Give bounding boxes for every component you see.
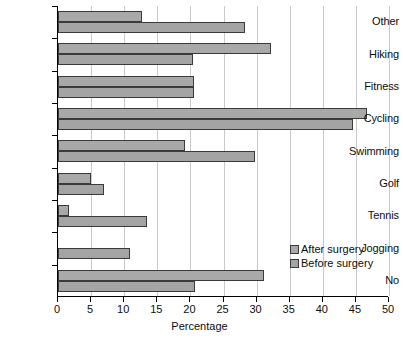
bar-before-surgery — [58, 216, 147, 227]
y-axis-tick — [52, 103, 57, 104]
bar-before-surgery — [58, 22, 245, 33]
bar-before-surgery — [58, 119, 353, 130]
bar-group — [58, 200, 388, 232]
bar-after-surgery — [58, 270, 264, 281]
bar-after-surgery — [58, 43, 271, 54]
bar-after-surgery — [58, 76, 194, 87]
bar-after-surgery — [58, 140, 185, 151]
y-axis-label: Golf — [347, 178, 399, 189]
legend-label: Before surgery — [301, 258, 373, 269]
bar-after-surgery — [58, 173, 91, 184]
x-axis-label: 20 — [174, 304, 204, 315]
x-axis-tick — [388, 297, 389, 302]
x-axis-label: 35 — [274, 304, 304, 315]
bar-group — [58, 6, 388, 38]
chart-legend: After surgery Before surgery — [290, 243, 373, 271]
x-axis-tick — [189, 297, 190, 302]
x-axis-tick — [289, 297, 290, 302]
y-axis-label: Cycling — [347, 113, 399, 124]
bar-group — [58, 71, 388, 103]
legend-swatch-icon — [290, 245, 299, 254]
x-axis-tick — [322, 297, 323, 302]
y-axis-label: No — [347, 275, 399, 286]
bar-before-surgery — [58, 151, 255, 162]
y-axis-tick — [52, 168, 57, 169]
x-axis-tick — [57, 297, 58, 302]
legend-item-before-surgery: Before surgery — [290, 257, 373, 270]
bar-before-surgery — [58, 281, 195, 292]
bar-before-surgery — [58, 54, 193, 65]
y-axis-label: Tennis — [347, 210, 399, 221]
x-axis-label: 10 — [108, 304, 138, 315]
y-axis-label: Hiking — [347, 49, 399, 60]
x-axis-label: 0 — [42, 304, 72, 315]
bar-group — [58, 135, 388, 167]
bar-after-surgery — [58, 108, 367, 119]
x-axis-tick — [223, 297, 224, 302]
x-axis-label: 15 — [141, 304, 171, 315]
x-axis-label: 45 — [340, 304, 370, 315]
bar-after-surgery — [58, 205, 69, 216]
y-axis-tick — [52, 71, 57, 72]
x-axis-title: Percentage — [0, 321, 399, 332]
legend-item-after-surgery: After surgery — [290, 243, 373, 256]
bar-before-surgery — [58, 87, 194, 98]
bar-before-surgery — [58, 248, 130, 259]
bar-after-surgery — [58, 11, 142, 22]
x-axis-label: 50 — [373, 304, 403, 315]
x-axis-tick — [256, 297, 257, 302]
bar-group — [58, 38, 388, 70]
y-axis-label: Fitness — [347, 81, 399, 92]
x-axis-tick — [123, 297, 124, 302]
x-axis-label: 30 — [241, 304, 271, 315]
legend-swatch-icon — [290, 259, 299, 268]
x-axis-label: 25 — [208, 304, 238, 315]
y-axis-label: Swimming — [347, 146, 399, 157]
bar-group — [58, 168, 388, 200]
legend-label: After surgery — [301, 244, 364, 255]
x-axis-tick — [355, 297, 356, 302]
x-axis-label: 5 — [75, 304, 105, 315]
bar-before-surgery — [58, 184, 104, 195]
y-axis-tick — [52, 265, 57, 266]
y-axis-tick — [52, 6, 57, 7]
y-axis-tick — [52, 200, 57, 201]
x-axis-tick — [156, 297, 157, 302]
y-axis-tick — [52, 38, 57, 39]
y-axis-tick — [52, 135, 57, 136]
bar-group — [58, 103, 388, 135]
x-axis-label: 40 — [307, 304, 337, 315]
y-axis-tick — [52, 232, 57, 233]
x-axis-tick — [90, 297, 91, 302]
y-axis-label: Other — [347, 16, 399, 27]
